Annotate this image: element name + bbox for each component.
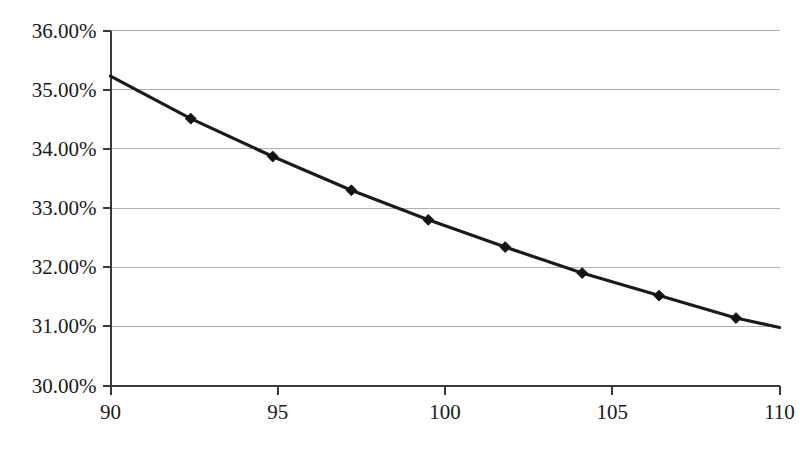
y-tick-label: 32.00% [32, 255, 97, 279]
chart-container: 30.00%31.00%32.00%33.00%34.00%35.00%36.0… [0, 0, 808, 451]
y-tick-label: 33.00% [32, 196, 97, 220]
x-tick-label: 100 [429, 400, 461, 424]
y-tick-label: 34.00% [32, 137, 97, 161]
y-tick-label: 36.00% [32, 19, 97, 43]
line-chart: 30.00%31.00%32.00%33.00%34.00%35.00%36.0… [0, 0, 808, 451]
y-tick-label: 35.00% [32, 78, 97, 102]
x-tick-label: 110 [764, 400, 795, 424]
chart-background [0, 0, 808, 451]
x-tick-label: 90 [100, 400, 121, 424]
y-tick-label: 31.00% [32, 314, 97, 338]
y-tick-label: 30.00% [32, 374, 97, 398]
x-tick-label: 105 [597, 400, 629, 424]
x-tick-label: 95 [267, 400, 288, 424]
